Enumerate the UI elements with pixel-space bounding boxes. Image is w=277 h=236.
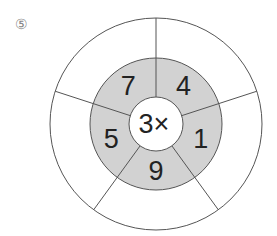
center-multiplier: 3× (139, 109, 170, 139)
multiplication-wheel: 3× 41957 (0, 0, 277, 236)
ring-number: 7 (121, 71, 136, 101)
ring-number: 1 (193, 124, 208, 154)
ring-number: 5 (104, 124, 119, 154)
ring-number: 9 (148, 156, 163, 186)
ring-number: 4 (176, 71, 191, 101)
